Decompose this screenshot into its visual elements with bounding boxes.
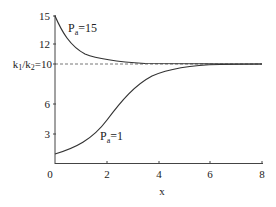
series-pa-1 (55, 64, 262, 154)
x-tick-2: 2 (104, 168, 110, 180)
y-tick-3: 3 (45, 128, 51, 140)
y-tick-6: 6 (45, 98, 51, 110)
x-tick-8: 8 (259, 168, 265, 180)
reference-line-label: k1/k2=10 (13, 58, 53, 72)
y-tick-15: 15 (39, 10, 51, 22)
annotation-pa-15: Pa=15 (68, 21, 97, 37)
y-tick-12: 12 (39, 38, 50, 50)
x-axis-label: x (159, 185, 165, 197)
x-tick-4: 4 (156, 168, 162, 180)
annotation-pa-1: Pa=1 (100, 129, 123, 145)
chart: 15 12 6 3 k1/k2=10 0 2 4 6 8 x Pa=15 Pa=… (0, 0, 276, 207)
x-tick-0: 0 (47, 168, 53, 180)
x-tick-6: 6 (207, 168, 213, 180)
